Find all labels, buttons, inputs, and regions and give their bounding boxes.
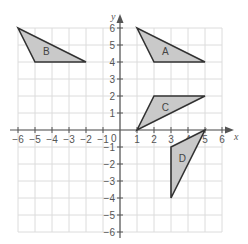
y-tick-label: −2: [104, 159, 116, 170]
y-axis-arrow-icon: [117, 14, 124, 23]
x-tick-label: 6: [219, 134, 225, 145]
y-axis-label: y: [110, 11, 116, 22]
triangle-label: D: [179, 153, 186, 164]
y-tick-label: −4: [104, 193, 116, 204]
y-tick-label: 4: [109, 57, 115, 68]
triangle-label: C: [162, 102, 169, 113]
y-tick-label: −3: [104, 176, 116, 187]
y-tick-label: −1: [104, 142, 116, 153]
x-axis-label: x: [233, 131, 239, 142]
x-tick-label: −6: [12, 134, 24, 145]
y-tick-label: 1: [109, 108, 115, 119]
y-tick-label: 3: [109, 74, 115, 85]
y-tick-label: 6: [109, 23, 115, 34]
y-tick-label: 5: [109, 40, 115, 51]
x-tick-label: 5: [202, 134, 208, 145]
y-tick-label: 2: [109, 91, 115, 102]
coordinate-grid: x y 0 −6−5−4−3−2−1123456654321−1−2−3−4−5…: [0, 0, 248, 244]
x-tick-label: −3: [63, 134, 75, 145]
x-tick-label: −4: [46, 134, 58, 145]
triangle-label: B: [43, 46, 50, 57]
x-tick-label: 2: [151, 134, 157, 145]
x-tick-label: 3: [168, 134, 174, 145]
x-tick-label: −2: [80, 134, 92, 145]
x-axis-arrow-icon: [225, 127, 234, 134]
x-tick-label: 1: [134, 134, 140, 145]
triangle-label: A: [162, 46, 169, 57]
y-tick-label: −6: [104, 227, 116, 238]
x-tick-label: −5: [29, 134, 41, 145]
y-tick-label: −5: [104, 210, 116, 221]
